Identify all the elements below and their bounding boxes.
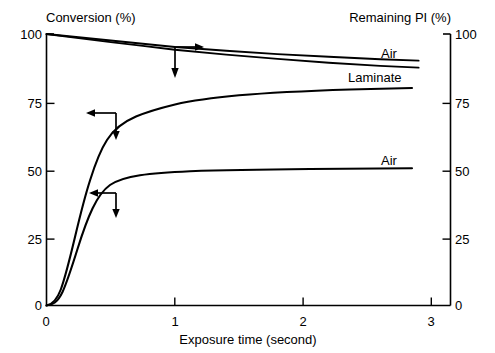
x-tick-label-2: 2 bbox=[299, 314, 306, 329]
curve-conversion-laminate bbox=[47, 88, 413, 306]
arrow-left-conversion-air bbox=[89, 189, 116, 196]
chart-figure: Conversion (%) Remaining PI (%) Exposure… bbox=[0, 0, 495, 353]
right-tick-label-100: 100 bbox=[455, 27, 477, 42]
right-tick-label-25: 25 bbox=[455, 232, 469, 247]
left-tick-label-50: 50 bbox=[28, 164, 42, 179]
arrow-down-remaining-pi bbox=[171, 47, 178, 78]
x-tick-labels: 0 1 2 3 bbox=[42, 314, 434, 329]
left-tick-label-100: 100 bbox=[20, 27, 42, 42]
left-tick-label-75: 75 bbox=[28, 96, 42, 111]
arrow-down-conversion-air bbox=[112, 193, 119, 218]
right-tick-labels: 100 75 50 25 0 bbox=[455, 27, 477, 313]
x-tick-label-0: 0 bbox=[42, 314, 49, 329]
right-axis-title: Remaining PI (%) bbox=[349, 10, 451, 25]
conversion-remaining-pi-chart: Conversion (%) Remaining PI (%) Exposure… bbox=[0, 0, 495, 353]
left-axis-ticks bbox=[47, 103, 55, 239]
right-axis-ticks bbox=[443, 103, 451, 239]
left-tick-label-25: 25 bbox=[28, 232, 42, 247]
series-label-air-top: Air bbox=[381, 46, 398, 61]
left-tick-labels: 100 75 50 25 0 bbox=[20, 27, 42, 313]
right-tick-label-50: 50 bbox=[455, 164, 469, 179]
left-axis-title: Conversion (%) bbox=[46, 10, 136, 25]
arrow-left-conversion-laminate bbox=[86, 109, 116, 116]
left-tick-label-0: 0 bbox=[35, 298, 42, 313]
x-axis-title: Exposure time (second) bbox=[179, 332, 316, 347]
x-tick-label-3: 3 bbox=[427, 314, 434, 329]
x-axis-ticks bbox=[175, 298, 432, 306]
right-tick-label-75: 75 bbox=[455, 96, 469, 111]
right-tick-label-0: 0 bbox=[455, 298, 462, 313]
x-tick-label-1: 1 bbox=[171, 314, 178, 329]
curve-remaining-pi-air bbox=[47, 34, 419, 61]
curve-conversion-air bbox=[47, 168, 413, 305]
series-label-laminate: Laminate bbox=[348, 70, 401, 85]
series-label-air-bottom: Air bbox=[381, 153, 398, 168]
